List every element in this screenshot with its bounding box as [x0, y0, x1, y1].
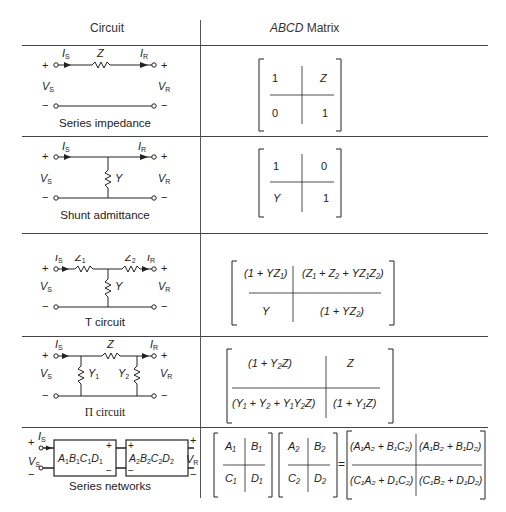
svg-text:IR: IR: [147, 255, 155, 264]
caption-pi-circuit: Π circuit: [30, 406, 180, 418]
svg-text:Z: Z: [106, 340, 115, 350]
matrix-b: (Z₁ + Z₂ + YZ₁Z₂): [302, 267, 384, 279]
svg-text:VR: VR: [160, 367, 172, 380]
svg-text:IR: IR: [138, 140, 146, 153]
svg-text:+: +: [42, 349, 48, 361]
series-impedance-diagram: + + IS Z IR VS VR − −: [30, 48, 180, 118]
row-rule-4: [22, 427, 488, 428]
matrix-a: (1 + YZ₁): [244, 267, 287, 279]
svg-text:−: −: [190, 468, 196, 480]
svg-text:+: +: [161, 59, 167, 71]
svg-text:IS: IS: [62, 140, 70, 153]
series-networks-diagram: + VS − IS A1B1C1D1 + − + − A2B2C2D2: [22, 430, 197, 482]
matrix-1-c: C₁: [225, 472, 236, 484]
matrix-a: 1: [272, 72, 278, 84]
matrix-a: (1 + Y₂Z): [248, 357, 292, 369]
svg-text:A1B1C1D1: A1B1C1D1: [57, 452, 103, 465]
svg-text:+: +: [161, 262, 167, 274]
svg-text:−: −: [161, 99, 167, 111]
matrix-2-a: A₂: [288, 440, 300, 452]
svg-text:+: +: [42, 59, 48, 71]
matrix-d: 1: [323, 192, 329, 204]
svg-text:−: −: [106, 465, 112, 476]
svg-text:Z1: Z1: [74, 255, 86, 264]
svg-text:−: −: [42, 191, 48, 203]
resistor-icon: [105, 170, 111, 188]
result-c: (C₁A₂ + D₁C₂): [350, 474, 413, 486]
header-circuit: Circuit: [90, 21, 124, 35]
svg-text:−: −: [128, 465, 134, 476]
row-rule-2: [22, 233, 488, 234]
svg-text:VR: VR: [158, 80, 170, 93]
result-a: (A₁A₂ + B₁C₂): [350, 440, 412, 452]
svg-text:Z2: Z2: [124, 255, 136, 264]
svg-text:IS: IS: [38, 430, 46, 443]
result-b: (A₁B₂ + B₁D₂): [419, 440, 481, 452]
svg-text:−: −: [42, 99, 48, 111]
header-abcd-matrix: ABCD Matrix: [270, 21, 339, 35]
svg-text:+: +: [28, 436, 34, 448]
header-matrix-word: Matrix: [303, 21, 339, 35]
svg-text:+: +: [190, 434, 196, 446]
svg-text:IS: IS: [55, 255, 63, 264]
svg-text:−: −: [161, 191, 167, 203]
matrix-1-b: B₁: [251, 440, 262, 452]
current-arrow-icon: [64, 62, 71, 68]
matrix-d: (1 + Y₁Z): [333, 397, 376, 409]
svg-text:VR: VR: [186, 453, 198, 466]
svg-text:−: −: [42, 389, 48, 401]
matrix-b: 0: [321, 160, 327, 172]
svg-text:Y1: Y1: [88, 367, 99, 380]
pi-circuit-diagram: + + IS Z IR Y1 Y2 VS VR − −: [30, 340, 180, 406]
matrix-c: Y: [273, 192, 280, 204]
svg-text:VS: VS: [42, 80, 54, 93]
resistor-icon: [92, 62, 110, 68]
caption-series-networks: Series networks: [30, 480, 190, 492]
svg-text:Y: Y: [115, 280, 123, 292]
row-rule-3: [22, 336, 488, 337]
t-circuit-diagram: + + IS Z1 Z2 IR Y VS VR − −: [30, 255, 180, 317]
svg-text:+: +: [161, 150, 167, 162]
matrix-brackets: [258, 58, 342, 132]
header-rule: [22, 45, 488, 46]
row-rule-1: [22, 136, 488, 137]
svg-text:−: −: [42, 300, 48, 312]
matrix-a: 1: [273, 160, 279, 172]
matrix-brackets: [258, 148, 342, 218]
matrix-d: (1 + YZ₂): [320, 305, 364, 317]
svg-text:VS: VS: [40, 172, 52, 185]
svg-text:Y: Y: [115, 172, 123, 184]
matrix-1-brackets: [213, 432, 273, 498]
svg-text:VR: VR: [158, 280, 170, 293]
svg-text:Z: Z: [96, 48, 105, 59]
caption-shunt-admittance: Shunt admittance: [30, 209, 180, 221]
result-d: (C₁B₂ + D₁D₂): [419, 474, 482, 486]
svg-text:IR: IR: [150, 340, 158, 351]
matrix-1-d: D₁: [251, 472, 262, 484]
svg-text:−: −: [161, 389, 167, 401]
svg-text:VS: VS: [28, 455, 40, 468]
matrix-1-a: A₁: [225, 440, 236, 452]
svg-text:A2B2C2D2: A2B2C2D2: [128, 452, 174, 465]
svg-text:−: −: [28, 468, 34, 480]
matrix-2-b: B₂: [314, 440, 326, 452]
matrix-c: 0: [272, 107, 278, 119]
svg-text:IS: IS: [55, 340, 63, 351]
matrix-2-brackets: [278, 432, 338, 498]
svg-text:VR: VR: [158, 172, 170, 185]
header-abcd-italic: ABCD: [270, 21, 303, 35]
svg-text:+: +: [42, 262, 48, 274]
matrix-c: Y: [262, 305, 269, 317]
svg-text:IS: IS: [62, 48, 70, 60]
equals-sign: =: [338, 457, 345, 471]
series-networks-output: IR + VR −: [180, 430, 202, 482]
svg-text:+: +: [42, 150, 48, 162]
caption-series-impedance: Series impedance: [30, 117, 180, 129]
matrix-d: 1: [322, 107, 328, 119]
svg-text:+: +: [161, 349, 167, 361]
svg-text:VS: VS: [40, 367, 52, 380]
svg-text:−: −: [161, 300, 167, 312]
matrix-2-c: C₂: [288, 472, 300, 484]
svg-text:IR: IR: [140, 48, 148, 60]
caption-t-circuit: T circuit: [30, 316, 180, 328]
